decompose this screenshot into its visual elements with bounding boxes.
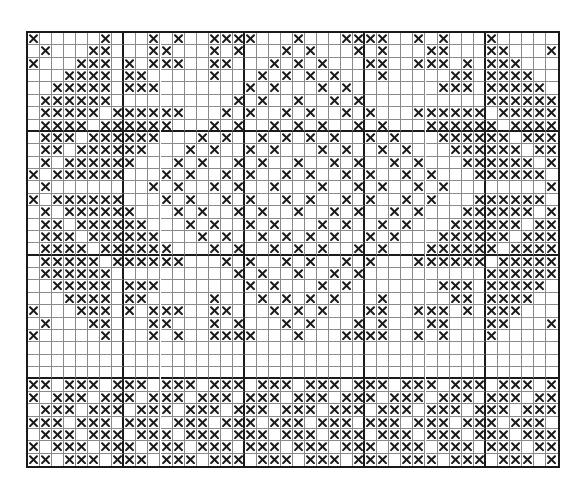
cross-stitch-icon [330, 380, 339, 389]
empty-cell [365, 157, 377, 169]
stitch-cell [64, 70, 76, 82]
empty-cell [377, 157, 389, 169]
empty-cell [341, 268, 353, 280]
empty-cell [28, 293, 40, 305]
cross-stitch-icon [137, 405, 146, 414]
empty-cell [124, 318, 136, 330]
stitch-cell [293, 157, 305, 169]
cross-stitch-icon [210, 294, 219, 303]
empty-cell [124, 342, 136, 354]
stitch-cell [136, 120, 148, 132]
empty-cell [401, 107, 413, 119]
empty-cell [221, 367, 233, 379]
cross-stitch-icon [414, 34, 423, 43]
empty-cell [389, 305, 401, 317]
empty-cell [474, 70, 486, 82]
cross-stitch-icon [487, 46, 496, 55]
cross-stitch-icon [29, 59, 38, 68]
empty-cell [245, 206, 257, 218]
empty-cell [377, 206, 389, 218]
cross-stitch-icon [535, 269, 544, 278]
cross-stitch-icon [439, 331, 448, 340]
empty-cell [293, 45, 305, 57]
empty-cell [317, 367, 329, 379]
cross-stitch-icon [487, 207, 496, 216]
cross-stitch-icon [234, 182, 243, 191]
cross-stitch-icon [439, 319, 448, 328]
empty-cell [28, 45, 40, 57]
cross-stitch-icon [282, 319, 291, 328]
empty-cell [281, 355, 293, 367]
cross-stitch-icon [222, 195, 231, 204]
stitch-cell [474, 379, 486, 391]
cross-stitch-icon [89, 430, 98, 439]
cross-stitch-icon [535, 121, 544, 130]
empty-cell [293, 132, 305, 144]
cross-stitch-icon [318, 442, 327, 451]
cross-stitch-icon [499, 455, 508, 464]
cross-stitch-icon [113, 121, 122, 130]
empty-cell [173, 243, 185, 255]
empty-cell [136, 33, 148, 45]
empty-cell [450, 157, 462, 169]
cross-stitch-icon [246, 281, 255, 290]
empty-cell [389, 280, 401, 292]
empty-cell [305, 342, 317, 354]
stitch-cell [389, 231, 401, 243]
empty-cell [161, 268, 173, 280]
cross-stitch-icon [342, 430, 351, 439]
cross-stitch-icon [294, 59, 303, 68]
cross-stitch-icon [475, 405, 484, 414]
empty-cell [52, 206, 64, 218]
empty-cell [112, 367, 124, 379]
cross-stitch-icon [113, 442, 122, 451]
stitch-cell [233, 318, 245, 330]
empty-cell [438, 144, 450, 156]
cross-stitch-icon [65, 393, 74, 402]
empty-cell [546, 367, 558, 379]
cross-stitch-icon [234, 455, 243, 464]
empty-cell [185, 33, 197, 45]
cross-stitch-icon [41, 232, 50, 241]
cross-stitch-icon [149, 319, 158, 328]
stitch-cell [40, 120, 52, 132]
cross-stitch-icon [547, 96, 556, 105]
cross-stitch-icon [511, 306, 520, 315]
empty-cell [40, 82, 52, 94]
cross-stitch-icon [113, 220, 122, 229]
stitch-cell [197, 392, 209, 404]
empty-cell [413, 280, 425, 292]
empty-cell [450, 268, 462, 280]
empty-cell [474, 367, 486, 379]
stitch-cell [52, 392, 64, 404]
empty-cell [28, 231, 40, 243]
cross-stitch-icon [65, 96, 74, 105]
empty-cell [462, 367, 474, 379]
stitch-cell [88, 107, 100, 119]
empty-cell [353, 280, 365, 292]
empty-cell [365, 404, 377, 416]
cross-stitch-icon [427, 455, 436, 464]
stitch-cell [389, 429, 401, 441]
cross-stitch-icon [463, 442, 472, 451]
empty-cell [40, 355, 52, 367]
empty-cell [28, 70, 40, 82]
stitch-cell [112, 243, 124, 255]
empty-cell [173, 429, 185, 441]
cross-stitch-icon [487, 232, 496, 241]
cross-stitch-icon [547, 108, 556, 117]
empty-cell [52, 355, 64, 367]
stitch-cell [76, 293, 88, 305]
stitch-cell [40, 144, 52, 156]
stitch-cell [173, 107, 185, 119]
stitch-cell [462, 379, 474, 391]
cross-stitch-icon [294, 34, 303, 43]
cross-stitch-icon [77, 59, 86, 68]
stitch-cell [76, 120, 88, 132]
stitch-cell [136, 144, 148, 156]
stitch-cell [136, 379, 148, 391]
empty-cell [197, 293, 209, 305]
empty-cell [233, 342, 245, 354]
stitch-cell [52, 256, 64, 268]
empty-cell [510, 342, 522, 354]
